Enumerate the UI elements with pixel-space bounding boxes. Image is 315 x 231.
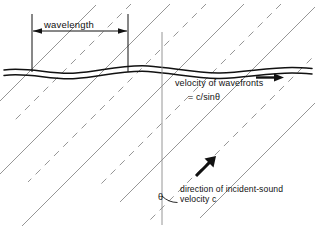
arrow-right-icon bbox=[274, 74, 284, 82]
incident-arrow-shaft bbox=[196, 161, 211, 176]
arrow-right-icon bbox=[118, 28, 127, 34]
incident-direction-arrow-group bbox=[196, 156, 216, 176]
arrow-left-icon bbox=[33, 28, 42, 34]
velocity-formula-label: = c/sinθ bbox=[188, 92, 220, 102]
wavefront-ray-solid bbox=[120, 4, 315, 202]
velocity-c-label: velocity c bbox=[180, 195, 216, 205]
velocity-of-wavefronts-label: velocity of wavefronts bbox=[175, 78, 263, 88]
wavefront-ray-solid bbox=[200, 82, 315, 218]
theta-angle-label: θ bbox=[158, 192, 163, 202]
wave-diagram: wavelength velocity of wavefronts = c/si… bbox=[0, 0, 315, 231]
wavelength-label: wavelength bbox=[44, 20, 94, 31]
angle-arc bbox=[162, 196, 178, 203]
